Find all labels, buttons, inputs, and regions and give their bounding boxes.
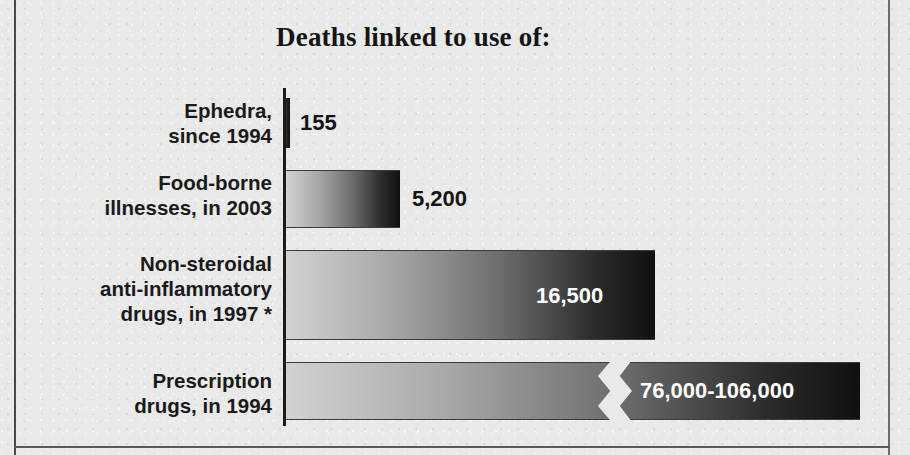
bar-category-label-line: Food-borne xyxy=(32,170,272,195)
bar-row[interactable]: Non-steroidalanti-inflammatorydrugs, in … xyxy=(0,249,910,360)
bar-category-label-line: Non-steroidal xyxy=(32,251,272,276)
bar-category-label-line: illnesses, in 2003 xyxy=(32,195,272,220)
bar-value-label: 76,000-106,000 xyxy=(640,378,794,404)
bar-value-label: 155 xyxy=(300,110,337,136)
bar[interactable] xyxy=(286,98,290,148)
bar-category-label: Ephedra,since 1994 xyxy=(32,98,272,148)
bar-category-label-line: Ephedra, xyxy=(32,98,272,123)
bar-row[interactable]: Ephedra,since 1994155 xyxy=(0,88,910,166)
bar-value-label: 5,200 xyxy=(412,186,467,212)
bar-category-label-line: Prescription xyxy=(32,368,272,393)
bar-category-label: Non-steroidalanti-inflammatorydrugs, in … xyxy=(32,251,272,326)
bar-category-label-line: drugs, in 1994 xyxy=(32,393,272,418)
chart-title: Deaths linked to use of: xyxy=(276,22,551,53)
bar-value-label: 16,500 xyxy=(536,283,603,309)
page-border-bottom xyxy=(14,446,890,448)
bar-row[interactable]: Prescriptiondrugs, in 199476,000-106,000 xyxy=(0,360,910,426)
bar[interactable] xyxy=(286,170,400,228)
bar-category-label-line: since 1994 xyxy=(32,123,272,148)
bar-category-label-line: anti-inflammatory xyxy=(32,276,272,301)
bar-row[interactable]: Food-borneillnesses, in 20035,200 xyxy=(0,166,910,249)
bar-category-label-line: drugs, in 1997 * xyxy=(32,301,272,326)
bar-category-label: Food-borneillnesses, in 2003 xyxy=(32,170,272,220)
plot-area: Ephedra,since 1994155Food-borneillnesses… xyxy=(0,88,910,428)
chart-figure: Deaths linked to use of: Ephedra,since 1… xyxy=(0,0,910,455)
bar-category-label: Prescriptiondrugs, in 1994 xyxy=(32,368,272,418)
